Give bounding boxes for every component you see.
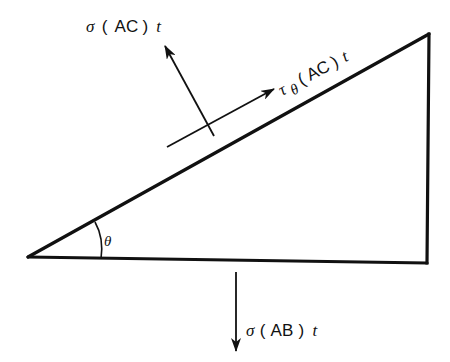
angle-theta-label: θ	[104, 233, 112, 249]
triangle-wedge	[28, 34, 429, 263]
svg-text:σ ( AC ): σ ( AC ) t	[86, 17, 162, 36]
angle-arc	[95, 222, 102, 259]
shear-force-label-AC: τ θ ( AC ) t	[275, 46, 355, 104]
normal-force-arrow-AC	[165, 46, 214, 136]
sigma-symbol: σ	[246, 321, 255, 340]
tau-symbol: τ	[275, 79, 290, 99]
svg-text:τ θ ( AC: τ θ ( AC ) t	[275, 46, 355, 104]
svg-text:σ ( AB ): σ ( AB ) t	[246, 321, 318, 340]
normal-force-label-AB: σ ( AB ) t	[246, 321, 318, 340]
sigma-symbol: σ	[86, 17, 95, 36]
edge-base-AB	[28, 257, 427, 263]
wedge-stress-diagram: θ σ ( AC ) t τ θ ( AC ) t σ ( AB ) t	[0, 0, 450, 362]
edge-hypotenuse-AC	[28, 34, 429, 257]
edge-vertical-BC	[427, 34, 429, 263]
normal-force-label-AC: σ ( AC ) t	[86, 17, 162, 36]
shear-force-arrow-AC	[167, 89, 274, 147]
